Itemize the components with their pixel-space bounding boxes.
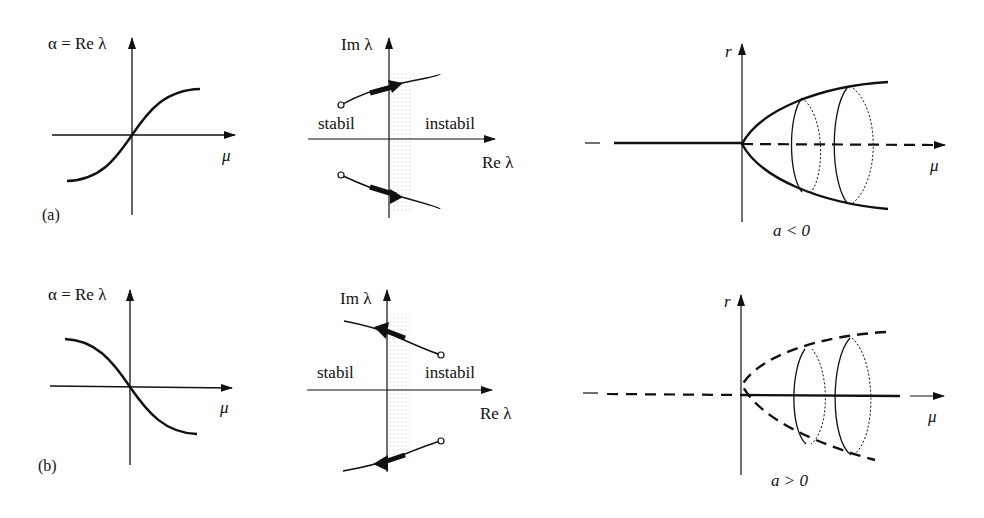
- stable-region-label: stabil: [317, 363, 354, 382]
- panel-a-re-plot: α = Re λ μ (a): [42, 34, 235, 224]
- x-axis-label: μ: [929, 156, 939, 175]
- unstable-region-label: instabil: [425, 114, 475, 133]
- condition-label: a > 0: [771, 471, 808, 490]
- y-axis-label: Im λ: [341, 35, 373, 54]
- x-axis-label: Re λ: [482, 153, 514, 172]
- panel-a-bifurcation-plot: r μ a < 0: [585, 42, 945, 240]
- unstable-equilibrium-branch: [607, 394, 741, 395]
- x-axis-label: Re λ: [480, 404, 512, 423]
- unstable-equilibrium-branch: [742, 144, 935, 145]
- arrow-left-icon: [373, 455, 388, 471]
- stable-equilibrium-branch: [741, 395, 900, 396]
- panel-b-re-plot: α = Re λ μ (b): [38, 285, 232, 475]
- y-axis-label: α = Re λ: [48, 34, 107, 53]
- panel-tag: (b): [38, 457, 57, 475]
- y-axis-label: r: [725, 42, 732, 61]
- panel-b-bifurcation-plot: r μ a > 0: [583, 292, 944, 490]
- stable-limit-cycle-branch: [742, 82, 888, 209]
- panel-b-eigen-plot: Im λ Re λ stabil instabil: [307, 289, 512, 472]
- y-axis-label: Im λ: [340, 289, 372, 308]
- panel-a-eigen-plot: Im λ Re λ stabil instabil: [308, 35, 514, 218]
- x-axis-label: μ: [221, 146, 231, 165]
- y-axis-label: r: [724, 292, 731, 311]
- hopf-bifurcation-figure: α = Re λ μ (a) Im λ Re λ stabil instabil: [0, 0, 984, 518]
- shaded-transition-strip: [390, 72, 412, 212]
- x-axis-label: μ: [219, 398, 229, 417]
- x-axis-label: μ: [927, 407, 937, 426]
- y-axis-label: α = Re λ: [48, 285, 107, 304]
- panel-tag: (a): [42, 206, 60, 224]
- stable-region-label: stabil: [318, 114, 355, 133]
- unstable-region-label: instabil: [425, 363, 475, 382]
- condition-label: a < 0: [773, 221, 810, 240]
